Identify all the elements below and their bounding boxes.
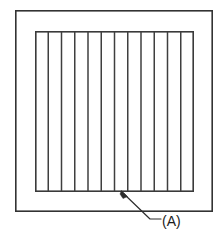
- callout-label-a: (A): [162, 213, 181, 229]
- technical-drawing-figure: (A): [0, 0, 224, 241]
- figure-canvas: (A): [0, 0, 224, 241]
